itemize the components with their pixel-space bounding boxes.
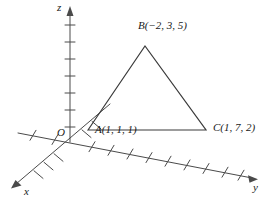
z-axis-arrowhead xyxy=(67,6,74,16)
point-label-c: C(1, 7, 2) xyxy=(213,122,255,133)
x-axis-label: x xyxy=(24,186,29,197)
y-axis xyxy=(18,130,252,180)
origin-label: O xyxy=(57,127,65,138)
triangle-abc xyxy=(88,46,206,130)
z-axis xyxy=(65,12,75,142)
y-axis-label: y xyxy=(253,182,258,193)
z-axis-label: z xyxy=(57,2,61,13)
coordinate-figure: z y x O A(1, 1, 1) B(−2, 3, 5) C(1, 7, 2… xyxy=(0,0,280,201)
point-label-a: A(1, 1, 1) xyxy=(95,124,137,135)
x-axis xyxy=(16,104,110,184)
point-label-b: B(−2, 3, 5) xyxy=(138,20,187,31)
